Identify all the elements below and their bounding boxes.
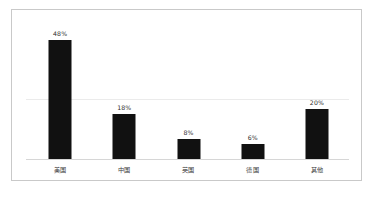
bar-group: 6% 德国 xyxy=(222,10,284,182)
bar-rect[interactable] xyxy=(49,40,72,159)
bar-value-label: 18% xyxy=(117,104,131,112)
bar-chart: 48% 美国 18% 中国 8% 英国 6% 德国 xyxy=(0,0,373,197)
bar-rect[interactable] xyxy=(177,139,200,159)
bar-value-label: 48% xyxy=(53,30,67,38)
bar-rect[interactable] xyxy=(113,114,136,159)
bar-value-label: 6% xyxy=(248,134,258,142)
bar-group: 8% 英国 xyxy=(158,10,220,182)
bar-group: 18% 中国 xyxy=(93,10,155,182)
chart-frame: 48% 美国 18% 中国 8% 英国 6% 德国 xyxy=(11,9,362,181)
bar-rect[interactable] xyxy=(241,144,264,159)
category-label: 其他 xyxy=(311,165,323,174)
category-label: 中国 xyxy=(118,165,130,174)
bar-value-label: 20% xyxy=(310,99,324,107)
bars-layer: 48% 美国 18% 中国 8% 英国 6% 德国 xyxy=(12,10,361,180)
bar-group: 48% 美国 xyxy=(29,10,91,182)
bar-group: 20% 其他 xyxy=(286,10,348,182)
plot-area: 48% 美国 18% 中国 8% 英国 6% 德国 xyxy=(12,10,361,180)
bar-value-label: 8% xyxy=(183,129,193,137)
category-label: 英国 xyxy=(182,165,194,174)
bar-rect[interactable] xyxy=(305,109,328,159)
category-label: 德国 xyxy=(246,165,258,174)
category-label: 美国 xyxy=(54,165,66,174)
